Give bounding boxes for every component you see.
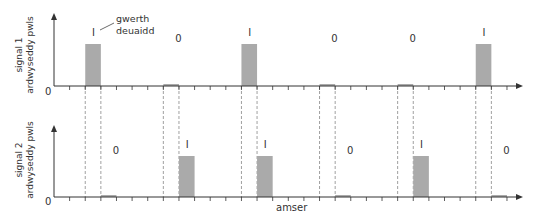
pulse-bar [413, 156, 429, 197]
signal-1-origin-label: 0 [45, 86, 51, 97]
signal-2-ylabel: signal 2 ardwyseddy pwls [14, 121, 35, 199]
annotation-leader-line [100, 23, 114, 30]
pulse-bar [476, 44, 492, 86]
bit-value-label: 0 [175, 33, 181, 44]
pulse-bar [241, 44, 257, 86]
x-axis-arrow-icon [516, 194, 523, 200]
pulse-bar [257, 156, 273, 197]
bit-value-label: I [186, 139, 189, 150]
y-axis-arrow-icon [51, 13, 57, 20]
pulse-bar [179, 156, 195, 197]
bit-value-label: I [92, 27, 95, 38]
bit-value-label: I [483, 27, 486, 38]
signal-2-ylabel-line1: signal 2 [14, 142, 24, 177]
bit-value-label: I [264, 139, 267, 150]
pulse-bar [85, 44, 101, 86]
signal-1-ylabel-line1: signal 1 [14, 37, 24, 72]
signal-2-origin-label: 0 [45, 196, 51, 207]
bit-value-label: 0 [331, 33, 337, 44]
time-slot-guides [85, 86, 491, 197]
signal-1-ylabel: signal 1 ardwyseddy pwls [14, 16, 35, 94]
binary-value-annotation: gwerth deuaidd [100, 13, 154, 36]
bit-value-label: 0 [113, 145, 119, 156]
bit-value-label: I [420, 139, 423, 150]
bit-value-label: 0 [409, 33, 415, 44]
annotation-line-1: gwerth [116, 13, 149, 24]
pulse-signal-diagram: I0I00I 0II0I0 gwerth deuaidd signal 1 ar… [0, 0, 533, 220]
bit-value-label: 0 [503, 145, 509, 156]
bit-value-label: I [248, 27, 251, 38]
y-axis-arrow-icon [51, 125, 57, 132]
annotation-line-2: deuaidd [116, 25, 154, 36]
signal-1-ylabel-line2: ardwyseddy pwls [25, 16, 35, 94]
x-axis-arrow-icon [516, 83, 523, 89]
signal-2-panel: 0II0I0 [51, 125, 523, 201]
signal-2-ylabel-line2: ardwyseddy pwls [25, 121, 35, 199]
x-axis-label: amser [276, 202, 308, 213]
bit-value-label: 0 [347, 145, 353, 156]
